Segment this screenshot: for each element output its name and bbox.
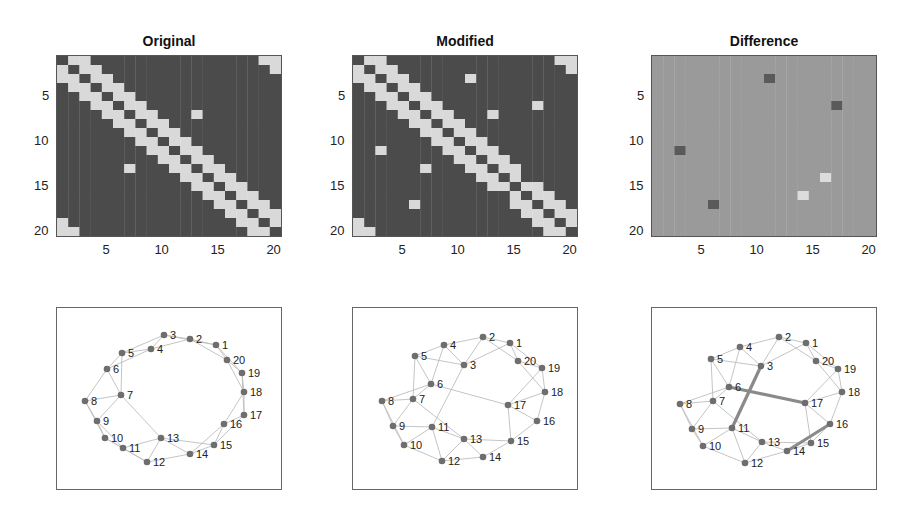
y-tick-label: 20 [629,223,643,238]
matrix-modified [352,55,578,237]
matrix-original [56,55,282,237]
y-tick-label: 20 [330,223,344,238]
y-tick-label: 5 [637,88,644,103]
title-modified: Modified [352,33,578,49]
y-tick-label: 10 [629,133,643,148]
x-tick-label: 5 [697,242,704,257]
x-tick-label: 15 [210,242,224,257]
graph-original [56,307,282,490]
x-tick-label: 20 [861,242,875,257]
y-tick-label: 15 [330,178,344,193]
x-tick-label: 10 [154,242,168,257]
y-tick-label: 10 [330,133,344,148]
y-tick-label: 10 [34,133,48,148]
x-tick-label: 15 [506,242,520,257]
x-tick-label: 20 [562,242,576,257]
x-tick-label: 5 [102,242,109,257]
graph-difference [651,307,877,490]
x-tick-label: 20 [266,242,280,257]
y-tick-label: 15 [34,178,48,193]
x-tick-label: 10 [450,242,464,257]
x-tick-label: 10 [749,242,763,257]
matrix-difference [651,55,877,237]
graph-modified [352,307,578,490]
y-tick-label: 20 [34,223,48,238]
x-tick-label: 15 [805,242,819,257]
title-original: Original [56,33,282,49]
y-tick-label: 15 [629,178,643,193]
title-difference: Difference [651,33,877,49]
x-tick-label: 5 [398,242,405,257]
y-tick-label: 5 [42,88,49,103]
y-tick-label: 5 [338,88,345,103]
